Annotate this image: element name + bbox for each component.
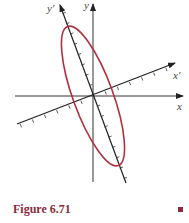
end-of-example-marker — [178, 207, 183, 212]
rotated-axes-ellipse-diagram: x y x′ y′ — [0, 0, 189, 190]
figure-caption: Figure 6.71 — [13, 202, 71, 217]
y-axis-label: y — [83, 0, 89, 11]
y-prime-axis-label: y′ — [46, 2, 55, 14]
x-prime-axis-label: x′ — [172, 69, 181, 81]
x-axis-label: x — [176, 100, 182, 112]
x-prime-axis — [17, 63, 175, 127]
